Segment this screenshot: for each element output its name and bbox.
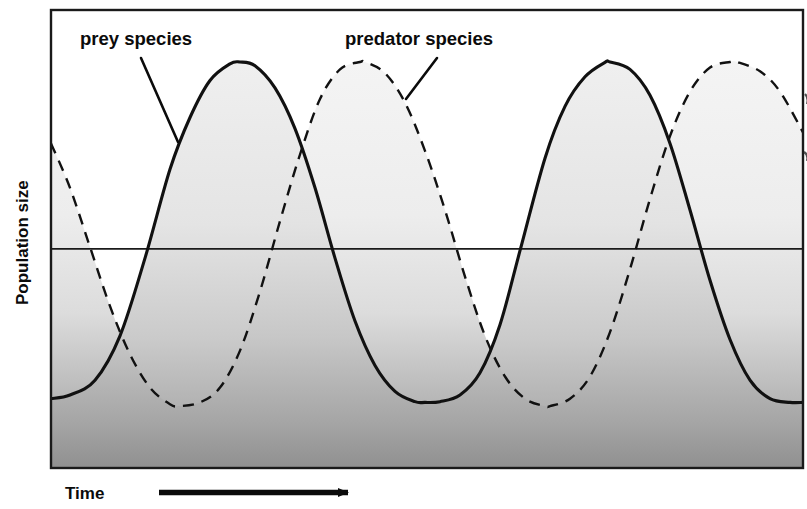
predator-species-label: predator species	[345, 28, 493, 49]
x-axis-label: Time	[65, 484, 104, 503]
figure-canvas: prey species predator species Population…	[0, 0, 807, 509]
prey-species-label: prey species	[80, 28, 192, 49]
population-cycles-figure: prey species predator species Population…	[0, 0, 807, 509]
y-axis-label: Population size	[13, 180, 32, 305]
